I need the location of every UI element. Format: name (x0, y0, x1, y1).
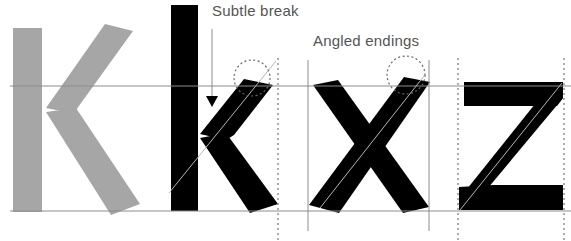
glyph-K-reference (13, 24, 140, 215)
z-diagonal (459, 98, 563, 199)
angled-endings-label: Angled endings (313, 32, 419, 49)
glyph-k (171, 5, 278, 213)
arrow-head-icon (206, 96, 218, 107)
subtle-break-arrow (206, 29, 218, 107)
K-lower-arm (46, 108, 140, 215)
K-upper-arm (46, 24, 133, 112)
subtle-break-label: Subtle break (212, 2, 299, 19)
k-lower-arm (200, 133, 278, 213)
z-bottom-bar (459, 185, 563, 210)
K-stem (13, 28, 42, 212)
typography-diagram (0, 0, 571, 241)
k-stem (171, 5, 198, 211)
